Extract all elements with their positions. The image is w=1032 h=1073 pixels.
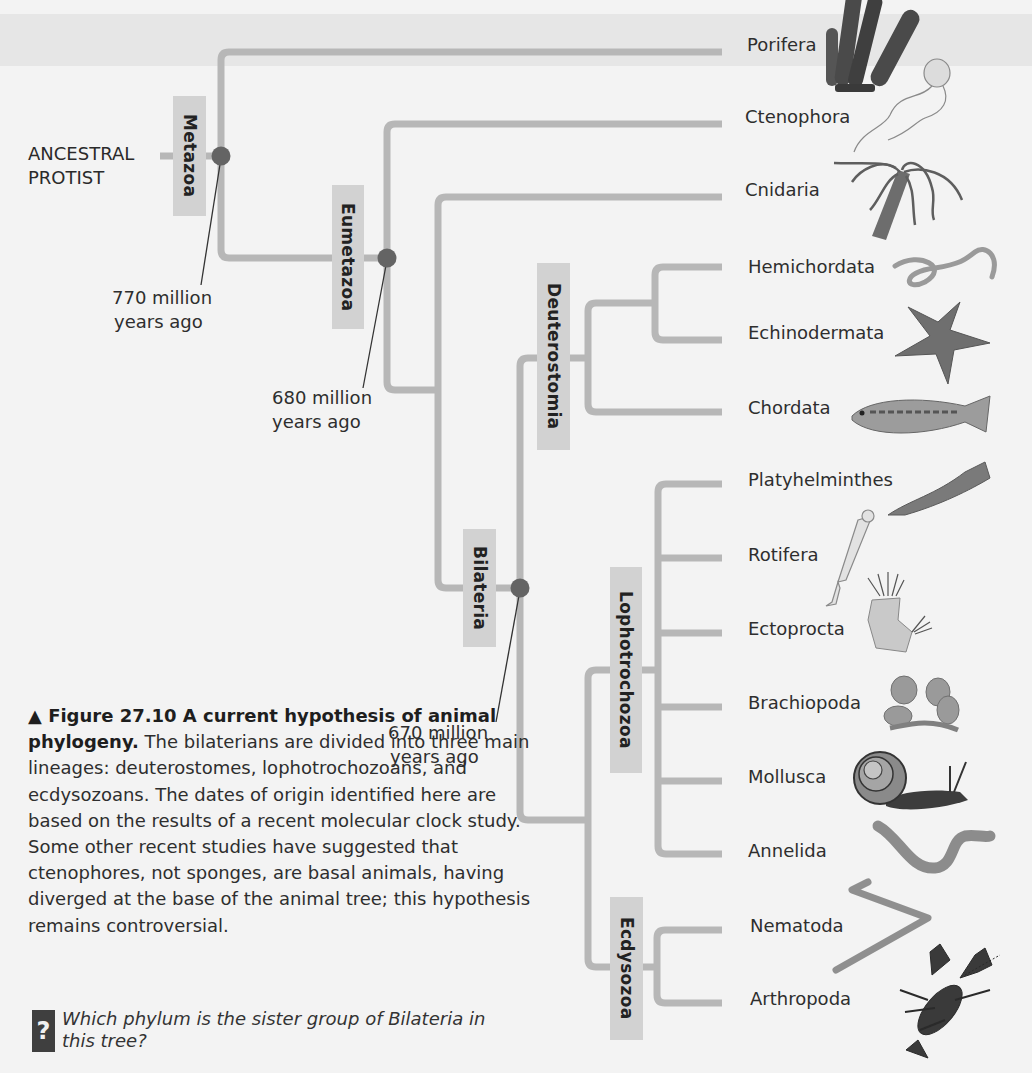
figure-question: ? Which phylum is the sister group of Bi… [32,1008,532,1054]
metazoa-branch [221,52,722,258]
bryozoan-icon [868,572,932,652]
root-label: ANCESTRAL PROTIST [28,142,134,190]
earthworm-icon [878,826,990,868]
brachiopod-icon [884,676,959,730]
lophotrochozoa-branch [658,484,722,854]
clade-eumetazoa: Eumetazoa [332,185,364,329]
acorn-worm-icon [895,249,994,284]
clade-label: Deuterostomia [544,283,564,429]
hemichordata-echinodermata-branch [655,267,722,340]
phylum-porifera: Porifera [747,35,816,55]
question-text: Which phylum is the sister group of Bila… [62,1008,522,1052]
lophotrochozoa-tips [658,558,722,781]
node-bilateria [511,579,530,598]
phylum-rotifera: Rotifera [748,545,819,565]
caption-body: The bilaterians are divided into three m… [28,731,530,935]
figure-caption: ▲ Figure 27.10 A current hypothesis of a… [28,703,548,939]
root-label-line2: PROTIST [28,166,134,190]
phylum-chordata: Chordata [748,398,831,418]
phylum-ctenophora: Ctenophora [745,107,850,127]
date-line1: 680 million [272,386,372,410]
comb-jelly-icon [854,59,950,152]
phylum-hemichordata: Hemichordata [748,257,875,277]
clade-bilateria: Bilateria [463,529,496,647]
ecdysozoa-branch [657,930,722,1003]
phylum-ectoprocta: Ectoprocta [748,619,845,639]
node-metazoa [212,147,231,166]
phylum-mollusca: Mollusca [748,767,826,787]
snail-icon [854,752,968,809]
triangle-icon: ▲ [28,705,42,726]
phylum-annelida: Annelida [748,841,827,861]
date-line2: years ago [272,410,372,434]
rotifer-icon [826,510,874,606]
phylum-echinodermata: Echinodermata [748,323,884,343]
date-line1: 770 million [112,286,212,310]
clade-label: Bilateria [470,546,490,630]
sea-star-icon [895,302,990,384]
date-line2: years ago [112,310,212,334]
clade-label: Metazoa [180,114,200,197]
fish-icon [852,396,990,433]
clade-metazoa: Metazoa [173,96,206,216]
phylum-arthropoda: Arthropoda [750,989,851,1009]
phylum-brachiopoda: Brachiopoda [748,693,861,713]
clade-label: Ecdysozoa [617,917,637,1019]
clade-lophotrochozoa: Lophotrochozoa [610,567,642,773]
clade-label: Eumetazoa [338,203,358,311]
flatworm-icon [888,462,990,515]
roundworm-icon [836,882,928,970]
question-icon: ? [32,1010,55,1052]
date-label-metazoa: 770 million years ago [112,286,212,334]
date-label-eumetazoa: 680 million years ago [272,386,372,434]
phylum-cnidaria: Cnidaria [745,180,820,200]
date-pointer-680 [363,260,387,388]
clade-ecdysozoa: Ecdysozoa [610,897,643,1040]
phylum-platyhelminthes: Platyhelminthes [748,470,893,490]
clade-label: Lophotrochozoa [616,591,636,749]
hydra-icon [834,163,962,240]
sponge-icon [826,0,923,92]
crayfish-icon [900,944,1000,1058]
node-eumetazoa [378,249,397,268]
clade-deuterostomia: Deuterostomia [537,263,570,450]
root-label-line1: ANCESTRAL [28,142,134,166]
phylum-nematoda: Nematoda [750,916,844,936]
